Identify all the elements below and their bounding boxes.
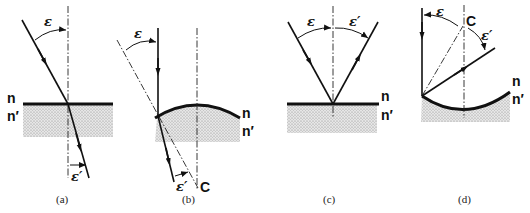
panel-b: ε ε′ C n n′ (b): [117, 26, 255, 206]
label-n-prime: n′: [381, 107, 394, 123]
caption-c: (c): [323, 193, 336, 206]
label-n: n: [242, 105, 251, 121]
arrow-icon: [38, 49, 45, 62]
angle-arc-incident: [35, 30, 66, 40]
optics-figure: ε ε′ n n′ (a) ε ε′ C n n′ (b) ε: [0, 0, 530, 213]
arrow-icon: [454, 68, 465, 75]
angle-label-incident: ε: [307, 14, 315, 29]
label-n-prime: n′: [512, 91, 525, 107]
angle-label-reflected: ε′: [349, 14, 361, 29]
panel-d: ε ε′ C n n′ (d): [421, 4, 525, 206]
angle-label-incident: ε: [436, 4, 444, 19]
angle-label-refracted: ε′: [176, 179, 188, 194]
angle-arc-incident: [126, 41, 156, 50]
incident-ray: [288, 22, 333, 104]
medium-n-prime-region: [421, 92, 510, 122]
arrow-icon: [352, 57, 359, 70]
angle-label-refracted: ε′: [71, 169, 83, 184]
arrow-icon: [166, 148, 169, 162]
label-n: n: [512, 73, 521, 89]
caption-d: (d): [458, 193, 471, 206]
panel-a: ε ε′ n n′ (a): [7, 6, 113, 206]
center-label-c: C: [466, 13, 476, 29]
label-n-prime: n′: [242, 123, 255, 139]
angle-label-reflected: ε′: [481, 28, 493, 43]
caption-b: (b): [182, 193, 195, 206]
label-n-prime: n′: [7, 108, 20, 124]
angle-arc-refracted: [175, 172, 188, 176]
medium-n-prime-region: [287, 105, 377, 133]
label-n: n: [381, 88, 390, 104]
angle-arc-incident: [298, 28, 331, 38]
arrow-icon: [303, 50, 310, 62]
angle-label-incident: ε: [134, 26, 142, 41]
caption-a: (a): [56, 193, 69, 206]
label-n: n: [7, 90, 16, 106]
center-label-c: C: [200, 179, 210, 195]
angle-label-incident: ε: [44, 14, 52, 29]
angle-arc-reflected: [335, 28, 368, 38]
normal-through-c: [422, 26, 463, 96]
panel-c: ε ε′ n n′ (c): [287, 6, 394, 206]
